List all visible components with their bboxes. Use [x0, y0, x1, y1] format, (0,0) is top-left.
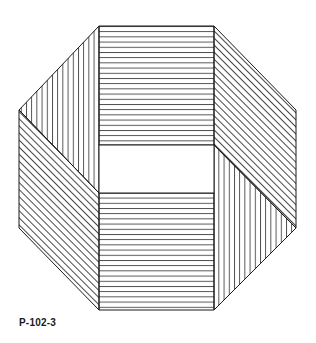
center-window — [99, 145, 214, 193]
hatched-octagon-figure — [0, 0, 316, 343]
figure-label: P-102-3 — [19, 317, 56, 328]
top-rect-panel — [99, 26, 214, 145]
bottom-rect-panel — [99, 193, 214, 310]
